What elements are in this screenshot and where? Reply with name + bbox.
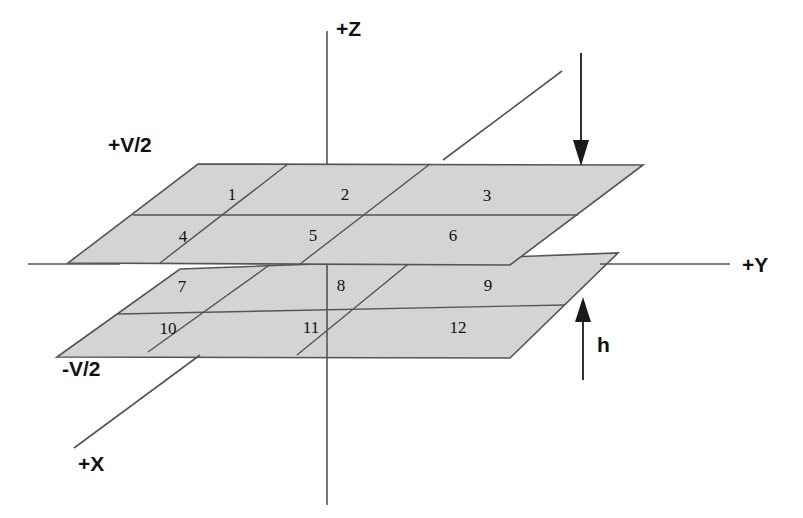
z-axis-label: +Z xyxy=(336,17,361,40)
x-axis-label: +X xyxy=(78,452,104,475)
cell-label-12: 12 xyxy=(450,318,467,337)
cell-label-6: 6 xyxy=(449,226,458,245)
separation-label: h xyxy=(597,333,610,356)
cell-label-9: 9 xyxy=(484,276,493,295)
cell-label-7: 7 xyxy=(178,277,187,296)
cell-label-5: 5 xyxy=(309,226,318,245)
cell-label-4: 4 xyxy=(179,227,188,246)
diagram-canvas: +Z +Y +X +V/2 -V/2 h 1 2 3 4 5 6 7 8 9 1… xyxy=(0,0,803,518)
y-axis-label: +Y xyxy=(742,253,768,276)
cell-label-3: 3 xyxy=(483,186,492,205)
cell-label-1: 1 xyxy=(228,185,237,204)
cell-label-11: 11 xyxy=(303,318,319,337)
cell-label-8: 8 xyxy=(337,276,346,295)
parallel-plate-capacitor-diagram: +Z +Y +X +V/2 -V/2 h 1 2 3 4 5 6 7 8 9 1… xyxy=(0,0,803,518)
lower-plate-potential-label: -V/2 xyxy=(62,357,101,380)
cell-label-10: 10 xyxy=(160,319,177,338)
cell-label-2: 2 xyxy=(341,185,350,204)
upper-plate-potential-label: +V/2 xyxy=(108,133,152,156)
